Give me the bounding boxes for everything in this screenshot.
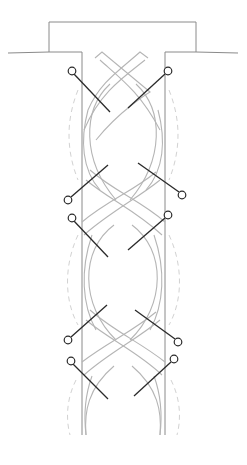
mid-cross-b bbox=[84, 180, 160, 235]
pin-icon bbox=[138, 163, 186, 199]
upper-outer-left bbox=[84, 110, 100, 190]
guide-right-upper bbox=[169, 90, 178, 180]
upper-oval-right bbox=[130, 84, 156, 200]
ground-line-right bbox=[196, 52, 238, 53]
mid-cross-b2 bbox=[82, 172, 156, 222]
pin-icon bbox=[64, 305, 107, 344]
pin-icon bbox=[134, 355, 178, 396]
guide-left-upper bbox=[69, 90, 78, 180]
pin-icon bbox=[64, 165, 108, 204]
upper-oval-left bbox=[90, 84, 116, 200]
ground-line-left bbox=[8, 52, 49, 53]
low-cross-b2 bbox=[82, 312, 156, 362]
guide-left-lower bbox=[68, 380, 76, 435]
pin-icon bbox=[135, 310, 182, 346]
bottom-oval-left bbox=[86, 366, 114, 435]
guide-right-lower bbox=[171, 380, 179, 435]
top-block bbox=[49, 22, 196, 52]
low-cross-a2 bbox=[90, 310, 165, 362]
board-outline bbox=[8, 22, 238, 435]
guide-left-middle bbox=[68, 235, 79, 325]
pin-icon bbox=[68, 67, 110, 112]
guide-right-middle bbox=[169, 235, 180, 325]
mid-cross-a bbox=[86, 180, 162, 235]
strand-top-b2 bbox=[100, 60, 160, 130]
